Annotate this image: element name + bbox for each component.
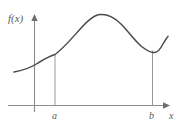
tick-label-b: b	[149, 110, 154, 121]
x-axis-label: x	[168, 110, 174, 121]
figure-canvas: f(x) a b x	[0, 0, 182, 130]
y-axis-label: f(x)	[8, 12, 24, 25]
x-axis-arrow-icon	[163, 102, 170, 108]
function-graph-figure: f(x) a b x	[0, 0, 182, 130]
y-axis-arrow-icon	[31, 14, 37, 21]
tick-label-a: a	[52, 110, 57, 121]
function-curve	[14, 14, 168, 72]
